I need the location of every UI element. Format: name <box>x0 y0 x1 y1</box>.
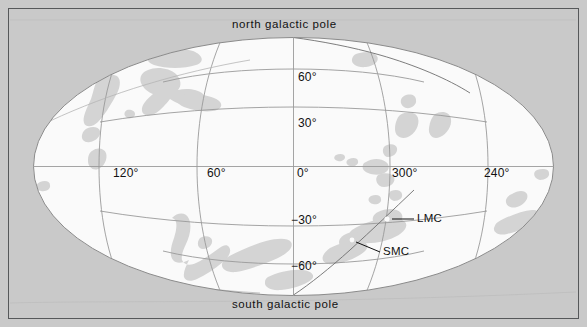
lmc-marker <box>384 216 389 221</box>
longitude-tick-label-240: 240° <box>484 166 510 180</box>
latitude-tick-label-30: 30° <box>298 116 317 130</box>
smc-marker <box>350 238 355 243</box>
south-galactic-pole-label: south galactic pole <box>232 298 339 310</box>
longitude-tick-label-0: 0° <box>297 166 309 180</box>
aitoff-projection-map <box>0 0 587 327</box>
longitude-tick-label-300: 300° <box>392 166 418 180</box>
all-sky-galactic-map-figure: north galactic pole south galactic pole … <box>0 0 587 327</box>
latitude-tick-label-minus-30: −30° <box>291 213 317 227</box>
smc-label: SMC <box>383 245 409 257</box>
latitude-tick-label-minus-60: −60° <box>291 259 317 273</box>
longitude-tick-label-120: 120° <box>113 166 139 180</box>
longitude-tick-label-60: 60° <box>207 166 226 180</box>
cloud-speckle-7 <box>369 195 382 204</box>
north-galactic-pole-label: north galactic pole <box>232 18 337 30</box>
lmc-label: LMC <box>417 212 442 224</box>
latitude-tick-label-60: 60° <box>298 70 317 84</box>
